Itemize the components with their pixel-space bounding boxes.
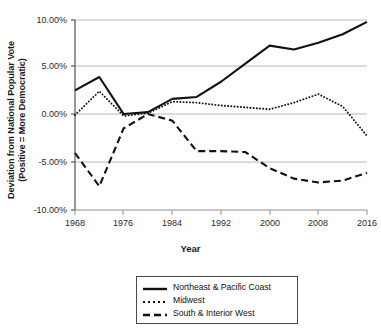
legend-item-south-interior-west: South & Interior West	[142, 306, 292, 319]
chart-legend: Northeast & Pacific Coast Midwest South …	[136, 276, 298, 324]
legend-swatch-solid-icon	[142, 281, 168, 293]
x-axis	[75, 210, 367, 215]
x-tick-label: 2008	[308, 218, 328, 228]
legend-item-midwest: Midwest	[142, 293, 292, 306]
y-tick-label: -5.00%	[38, 157, 67, 167]
chart-container: Deviation from National Popular Vote (Po…	[0, 0, 381, 330]
legend-label: Northeast & Pacific Coast	[173, 282, 271, 292]
legend-label: South & Interior West	[173, 308, 255, 318]
x-tick-label: 1976	[113, 218, 133, 228]
x-tick-labels: 1968 1976 1984 1992 2000 2008 2016	[65, 218, 377, 228]
plot-area: 10.00% 5.00% 0.00% -5.00% -10.00% 1968 1…	[0, 0, 381, 245]
x-axis-label: Year	[0, 243, 381, 254]
y-tick-label: 0.00%	[41, 109, 67, 119]
y-tick-label: 10.00%	[36, 15, 67, 25]
x-tick-label: 1968	[65, 218, 85, 228]
y-tick-labels: 10.00% 5.00% 0.00% -5.00% -10.00%	[33, 15, 67, 215]
series-line-northeast-pacific-coast	[75, 22, 367, 114]
x-tick-label: 1992	[211, 218, 231, 228]
legend-label: Midwest	[173, 295, 205, 305]
legend-swatch-dotted-icon	[142, 294, 168, 306]
series-line-south-interior-west	[75, 114, 367, 186]
legend-item-northeast-pacific-coast: Northeast & Pacific Coast	[142, 280, 292, 293]
legend-swatch-dashed-icon	[142, 307, 168, 319]
x-tick-label: 1984	[162, 218, 182, 228]
x-tick-label: 2000	[260, 218, 280, 228]
y-tick-label: 5.00%	[41, 61, 67, 71]
x-tick-label: 2016	[357, 218, 377, 228]
y-tick-label: -10.00%	[33, 205, 67, 215]
